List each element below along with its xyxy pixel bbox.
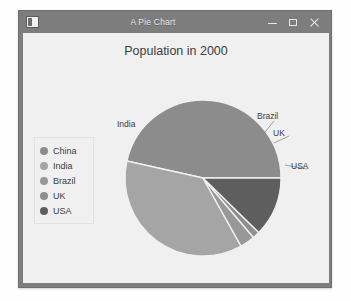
window-titlebar[interactable]: A Pie Chart [19, 11, 331, 33]
legend-item-brazil[interactable]: Brazil [40, 173, 89, 188]
slice-label-brazil: Brazil [257, 111, 278, 121]
legend-item-label: UK [53, 191, 66, 201]
legend-item-label: Brazil [53, 176, 76, 186]
legend-item-label: USA [53, 206, 72, 216]
window-controls [267, 17, 320, 28]
legend-swatch-icon [40, 192, 48, 200]
screenshot-root: A Pie Chart Population in 2000 [0, 0, 351, 301]
legend-swatch-icon [40, 177, 48, 185]
minimize-button[interactable] [267, 17, 278, 28]
legend-item-india[interactable]: India [40, 158, 89, 173]
legend-swatch-icon [40, 207, 48, 215]
chart-legend: ChinaIndiaBrazilUKUSA [34, 137, 94, 224]
legend-swatch-icon [40, 147, 48, 155]
maximize-button[interactable] [288, 17, 299, 28]
close-button[interactable] [309, 17, 320, 28]
legend-item-china[interactable]: China [40, 143, 89, 158]
figure-canvas: Population in 2000 India Brazil UK USA C… [23, 33, 329, 283]
legend-item-label: India [53, 161, 73, 171]
slice-label-uk: UK [273, 128, 285, 138]
pie-slices [125, 100, 281, 256]
legend-item-uk[interactable]: UK [40, 188, 89, 203]
legend-item-usa[interactable]: USA [40, 203, 89, 218]
application-icon [26, 16, 39, 28]
window-title: A Pie Chart [39, 17, 267, 27]
application-window: A Pie Chart Population in 2000 [18, 10, 332, 288]
slice-label-usa: USA [291, 161, 308, 171]
legend-item-label: China [53, 146, 77, 156]
slice-label-india: India [117, 119, 135, 129]
legend-swatch-icon [40, 162, 48, 170]
